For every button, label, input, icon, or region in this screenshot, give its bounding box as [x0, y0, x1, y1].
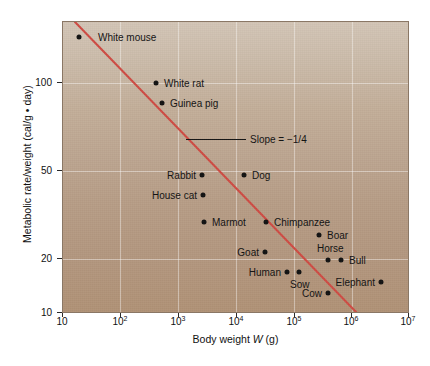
plot-area: Slope = −1/4 White mouse White rat Guine… [62, 21, 409, 313]
x-axis-title-units: (g) [263, 333, 279, 345]
datapoint-white-mouse[interactable] [77, 35, 82, 40]
xtick-label-1e3: 103 [158, 316, 198, 328]
datapoint-dog[interactable] [242, 173, 247, 178]
slope-leader-line [186, 139, 246, 140]
datapoint-rabbit[interactable] [200, 173, 205, 178]
datapoint-elephant[interactable] [379, 280, 384, 285]
label-dog: Dog [252, 170, 270, 181]
datapoint-white-rat[interactable] [154, 81, 159, 86]
label-boar: Boar [327, 230, 348, 241]
datapoint-guinea-pig[interactable] [160, 101, 165, 106]
label-elephant: Elephant [336, 277, 375, 288]
label-house-cat: House cat [152, 190, 197, 201]
label-cow: Cow [302, 288, 322, 299]
xtick-label-1e4: 104 [216, 316, 256, 328]
xtick-label-1e1: 10 [42, 316, 82, 328]
datapoint-marmot[interactable] [202, 220, 207, 225]
x-axis-title-variable: W [253, 333, 263, 345]
tick-y-20 [57, 258, 62, 259]
xtick-label-1e7: 107 [388, 316, 428, 328]
x-axis-title: Body weight W (g) [62, 333, 409, 345]
label-chimpanzee: Chimpanzee [274, 217, 330, 228]
label-guinea-pig: Guinea pig [170, 98, 218, 109]
datapoint-sow[interactable] [297, 270, 302, 275]
fit-line [63, 22, 409, 313]
metabolic-rate-scatter-figure: Slope = −1/4 White mouse White rat Guine… [0, 0, 430, 366]
xtick-label-1e2: 102 [100, 316, 140, 328]
datapoint-boar[interactable] [317, 233, 322, 238]
label-bull: Bull [349, 255, 366, 266]
y-axis-title: Metabolic rate/weight (cal/g • day) [21, 19, 33, 309]
label-rabbit: Rabbit [167, 170, 196, 181]
datapoint-goat[interactable] [263, 250, 268, 255]
slope-annotation-label: Slope = −1/4 [250, 134, 307, 145]
datapoint-human[interactable] [285, 270, 290, 275]
xtick-label-1e5: 105 [274, 316, 314, 328]
datapoint-horse[interactable] [326, 258, 331, 263]
xtick-label-1e6: 106 [331, 316, 371, 328]
label-human: Human [249, 267, 281, 278]
label-white-mouse: White mouse [98, 32, 156, 43]
tick-y-100 [57, 82, 62, 83]
label-goat: Goat [237, 247, 259, 258]
label-marmot: Marmot [212, 217, 246, 228]
datapoint-chimpanzee[interactable] [264, 220, 269, 225]
datapoint-house-cat[interactable] [201, 193, 206, 198]
x-axis-title-text: Body weight [193, 333, 253, 345]
label-white-rat: White rat [164, 78, 204, 89]
datapoint-cow[interactable] [326, 291, 331, 296]
datapoint-bull[interactable] [339, 258, 344, 263]
label-horse: Horse [317, 243, 344, 254]
tick-y-50 [57, 170, 62, 171]
